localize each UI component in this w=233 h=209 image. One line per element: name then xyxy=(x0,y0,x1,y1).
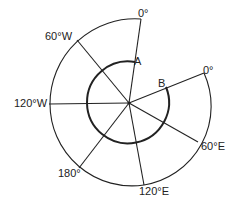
label-180: 180° xyxy=(58,168,81,179)
label-60e: 60°E xyxy=(201,141,225,152)
meridian-180 xyxy=(79,103,129,168)
label-60w: 60°W xyxy=(45,31,72,42)
meridian-60w xyxy=(77,40,129,103)
center-point xyxy=(127,101,130,104)
label-top-0: 0° xyxy=(138,8,149,19)
meridian-120w xyxy=(49,103,129,104)
label-120e: 120°E xyxy=(139,186,169,197)
label-point-b: B xyxy=(158,78,165,89)
meridian-60e xyxy=(129,103,198,142)
label-point-a: A xyxy=(134,56,141,67)
meridian-0-right xyxy=(129,73,204,103)
label-right-0: 0° xyxy=(203,65,214,76)
label-120w: 120°W xyxy=(14,98,47,109)
